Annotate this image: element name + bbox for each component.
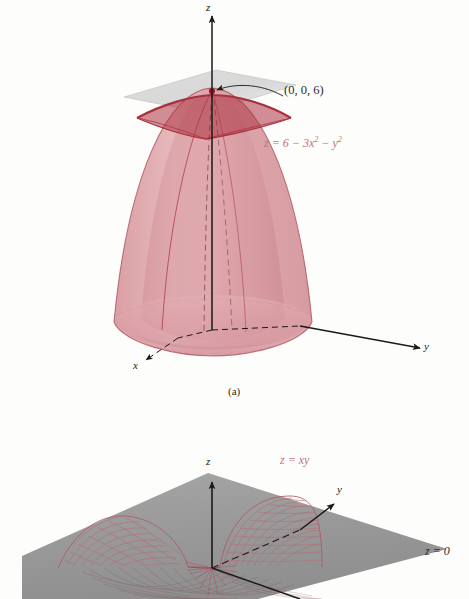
plane-eq-lhs: z — [425, 544, 430, 558]
plane-eq-rhs: 0 — [444, 544, 450, 558]
figure-b-y-axis-label: y — [337, 484, 342, 495]
eq-minus-1: − — [292, 136, 300, 150]
eq-minus-2: − — [321, 136, 329, 150]
figure-b-canvas — [0, 410, 469, 599]
figure-b-saddle: z y z = xy z = 0 — [0, 410, 469, 599]
paraboloid-equation-label: z = 6 − 3x2 − y2 — [264, 137, 342, 149]
plane-eq-equals: = — [433, 544, 441, 558]
saddle-eq-lhs: z — [280, 453, 285, 467]
figure-a-x-axis-label: x — [133, 360, 138, 371]
eq-term2-exponent: 2 — [338, 135, 342, 144]
figure-a-y-axis-label: y — [424, 341, 429, 352]
eq-lhs: z — [264, 136, 269, 150]
figure-a-canvas — [0, 0, 469, 410]
plane-equation-label: z = 0 — [425, 545, 450, 557]
point-of-tangency-label: (0, 0, 6) — [284, 84, 324, 97]
saddle-equation-label: z = xy — [280, 454, 309, 466]
saddle-eq-equals: = — [288, 453, 296, 467]
eq-term1-exponent: 2 — [314, 135, 318, 144]
figure-a-paraboloid: z y x (0, 0, 6) z = 6 − 3x2 − y2 (a) — [0, 0, 469, 410]
figure-a-caption: (a) — [228, 385, 240, 397]
eq-const: 6 — [283, 136, 289, 150]
figure-page: z y x (0, 0, 6) z = 6 − 3x2 − y2 (a) — [0, 0, 469, 599]
figure-b-z-axis-label: z — [206, 456, 210, 467]
figure-a-z-axis-label: z — [206, 2, 210, 13]
eq-equals: = — [272, 136, 280, 150]
saddle-eq-rhs: xy — [299, 453, 310, 467]
